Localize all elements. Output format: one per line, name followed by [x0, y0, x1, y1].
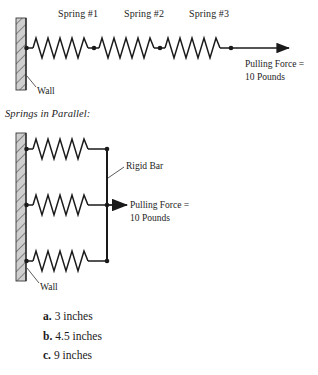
answer-letter-a: a. — [43, 310, 52, 322]
parallel-force-label-line1: Pulling Force = — [130, 199, 189, 212]
answer-text-b: 4.5 inches — [55, 330, 102, 342]
spring-3-label: Spring #3 — [189, 8, 229, 20]
parallel-wall-leader — [27, 268, 39, 283]
series-wall — [16, 18, 26, 90]
rigid-bar-label: Rigid Bar — [126, 161, 163, 172]
answer-choice-c[interactable]: c.9 inches — [43, 346, 283, 366]
series-wall-leader — [27, 76, 36, 87]
series-force-label-line1: Pulling Force = — [245, 58, 304, 71]
rigid-bar-leader — [108, 167, 124, 178]
answer-choice-a[interactable]: a.3 inches — [43, 307, 283, 327]
answer-choices: a.3 inches b.4.5 inches c.9 inches — [43, 307, 283, 366]
parallel-section-heading: Springs in Parallel: — [5, 108, 90, 120]
answer-letter-b: b. — [43, 330, 52, 342]
parallel-wall — [16, 133, 26, 281]
answer-choice-b[interactable]: b.4.5 inches — [43, 327, 283, 347]
series-wall-label: Wall — [37, 86, 55, 97]
series-force-label-line2: 10 Pounds — [245, 71, 285, 84]
answer-text-a: 3 inches — [55, 310, 93, 322]
answer-letter-c: c. — [43, 349, 51, 361]
spring-2-label: Spring #2 — [124, 8, 164, 20]
series-spring-chain — [26, 38, 231, 58]
parallel-springs — [26, 139, 107, 271]
parallel-wall-label: Wall — [40, 282, 58, 293]
answer-text-c: 9 inches — [54, 349, 92, 361]
parallel-force-label-line2: 10 Pounds — [130, 212, 170, 225]
spring-1-label: Spring #1 — [58, 8, 98, 20]
